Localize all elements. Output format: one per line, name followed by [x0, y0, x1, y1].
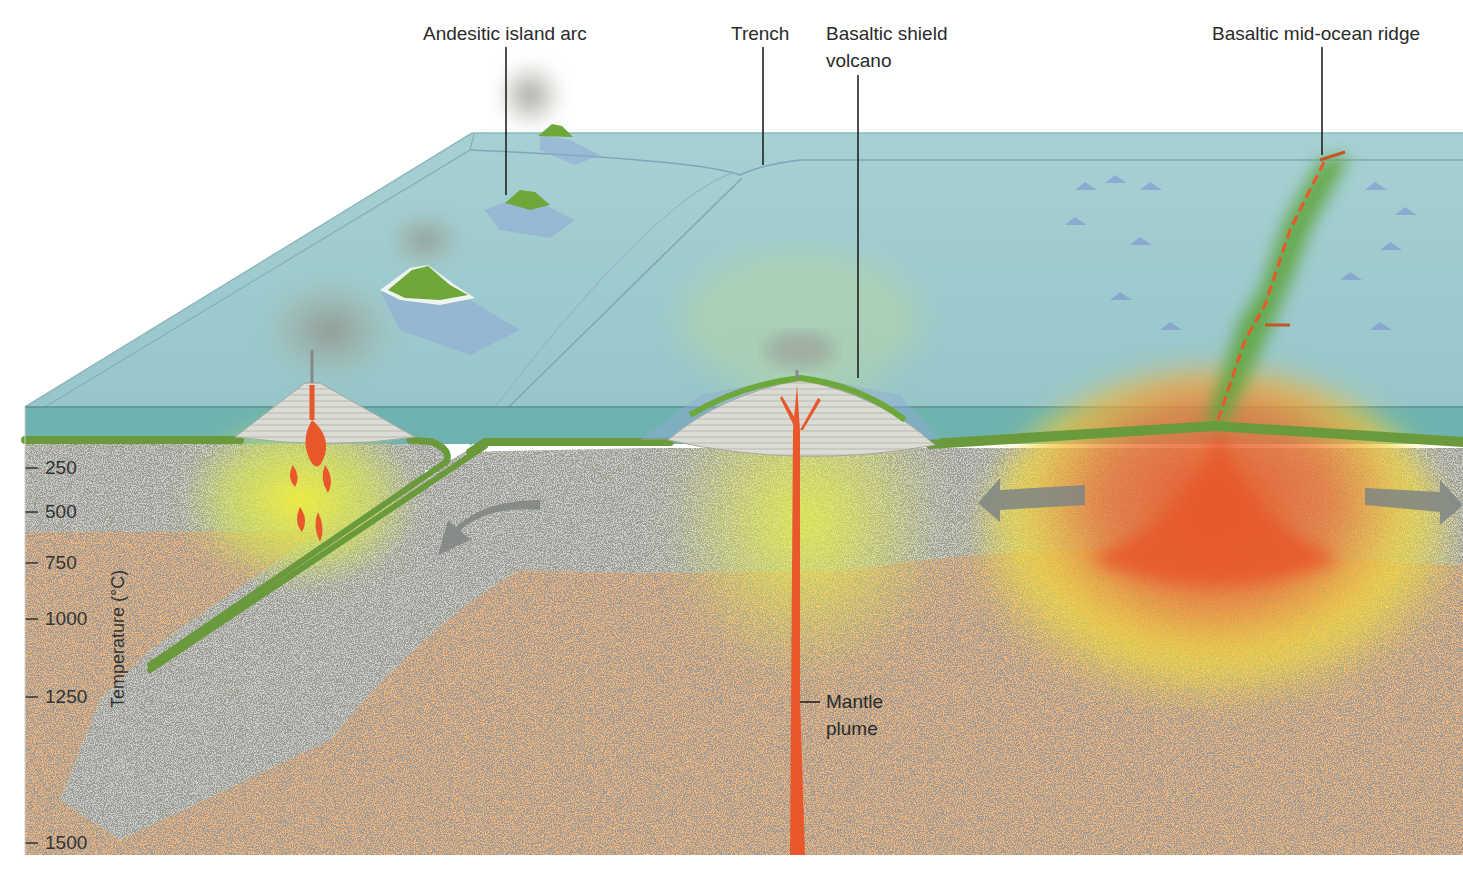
label-basaltic-shield-volcano-2: volcano	[826, 47, 892, 74]
temperature-tick-label: 500	[45, 502, 77, 522]
label-basaltic-shield-volcano-1: Basaltic shield	[826, 20, 947, 47]
temperature-tick-label: 750	[45, 553, 77, 573]
temperature-axis-title: Temperature (°C)	[108, 570, 129, 708]
plate-tectonics-diagram	[0, 0, 1463, 875]
label-mantle-plume-2: plume	[826, 715, 878, 742]
label-trench: Trench	[731, 20, 789, 47]
temperature-tick-label: 250	[45, 458, 77, 478]
label-andesitic-island-arc: Andesitic island arc	[423, 20, 587, 47]
temperature-tick-label: 1500	[45, 833, 87, 853]
label-basaltic-mid-ocean-ridge: Basaltic mid-ocean ridge	[1212, 20, 1420, 47]
label-mantle-plume-1: Mantle	[826, 688, 883, 715]
temperature-tick-label: 1000	[45, 609, 87, 629]
temperature-tick-label: 1250	[45, 687, 87, 707]
